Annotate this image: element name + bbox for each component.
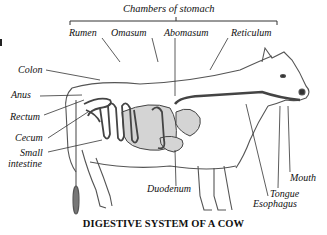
chambers-bracket bbox=[70, 17, 277, 25]
label-small-intestine-line1: Small bbox=[20, 147, 43, 158]
label-colon: Colon bbox=[18, 64, 42, 75]
label-omasum: Omasum bbox=[111, 27, 147, 38]
label-small-intestine-line2: intestine bbox=[8, 158, 42, 169]
label-mouth: Mouth bbox=[290, 172, 316, 183]
label-cecum: Cecum bbox=[15, 132, 43, 143]
left-edge-mark bbox=[0, 39, 2, 46]
chambers-of-stomach-label: Chambers of stomach bbox=[123, 3, 215, 14]
label-esophagus: Esophagus bbox=[253, 198, 297, 209]
label-reticulum: Reticulum bbox=[231, 27, 272, 38]
diagram-title: DIGESTIVE SYSTEM OF A COW bbox=[0, 218, 327, 229]
label-duodenum: Duodenum bbox=[147, 183, 191, 194]
label-abomasum: Abomasum bbox=[164, 27, 208, 38]
label-rectum: Rectum bbox=[10, 111, 40, 122]
label-rumen: Rumen bbox=[69, 27, 97, 38]
label-anus: Anus bbox=[11, 89, 31, 100]
